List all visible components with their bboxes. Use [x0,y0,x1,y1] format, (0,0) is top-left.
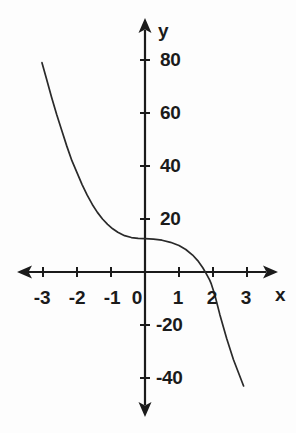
x-tick-label-3: 3 [241,288,251,307]
x-tick-label-0: 0 [132,288,142,307]
y-axis-line-group [139,18,152,417]
y-axis-label: y [158,21,168,40]
y-tick-label-40: 40 [160,156,181,175]
x-tick-label-minus-1: -1 [104,288,120,307]
x-tick-label-1: 1 [173,288,183,307]
x-axis-line-group [17,266,278,279]
plot-canvas [0,0,296,433]
y-tick-label-20: 20 [160,209,181,228]
x-tick-label-minus-3: -3 [34,288,50,307]
x-tick-label-2: 2 [207,288,217,307]
y-tick-label-minus-20: -20 [156,315,183,334]
x-axis-label: x [275,285,285,304]
x-tick-label-minus-2: -2 [69,288,85,307]
y-tick-label-minus-40: -40 [156,368,183,387]
graph-figure: 80 60 40 20 -20 -40 -3 -2 -1 0 1 2 3 y x [0,0,296,433]
y-tick-label-80: 80 [160,50,181,69]
function-curve [42,63,244,386]
y-tick-label-60: 60 [160,103,181,122]
